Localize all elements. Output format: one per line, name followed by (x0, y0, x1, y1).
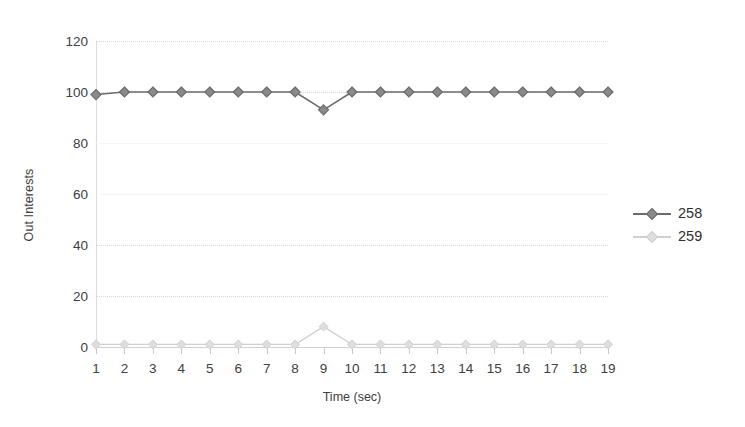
data-point-258-15 (489, 87, 499, 97)
data-point-258-4 (176, 87, 186, 97)
data-point-258-5 (205, 87, 215, 97)
x-axis-title: Time (sec) (96, 390, 608, 404)
y-tick-label-100: 100 (44, 86, 88, 100)
x-tick-label-1: 1 (83, 362, 109, 376)
x-tick-label-9: 9 (311, 362, 337, 376)
x-tick-label-13: 13 (424, 362, 450, 376)
data-point-258-19 (603, 87, 613, 97)
x-tick-label-4: 4 (168, 362, 194, 376)
series-258 (91, 87, 613, 115)
data-point-258-11 (375, 87, 385, 97)
data-point-258-18 (575, 87, 585, 97)
data-point-258-6 (233, 87, 243, 97)
line-chart: Out Interests Time (sec) 120100806040200… (0, 0, 745, 427)
x-tick-label-11: 11 (367, 362, 393, 376)
chart-legend: 258259 (632, 202, 732, 248)
x-tick-label-7: 7 (254, 362, 280, 376)
data-point-258-9 (319, 105, 329, 115)
data-point-258-8 (290, 87, 300, 97)
x-tick-label-8: 8 (282, 362, 308, 376)
x-tick-label-2: 2 (111, 362, 137, 376)
y-tick-label-20: 20 (44, 290, 88, 304)
x-tick-label-10: 10 (339, 362, 365, 376)
y-axis-title: Out Interests (14, 35, 44, 375)
x-tick-label-12: 12 (396, 362, 422, 376)
legend-label-258: 258 (678, 206, 702, 221)
y-tick-label-120: 120 (44, 35, 88, 49)
series-layer (96, 41, 608, 347)
legend-item-258[interactable]: 258 (632, 202, 732, 225)
data-point-258-17 (546, 87, 556, 97)
legend-swatch-259 (632, 230, 672, 244)
data-point-258-2 (119, 87, 129, 97)
x-tick-label-3: 3 (140, 362, 166, 376)
y-tick-label-80: 80 (44, 137, 88, 151)
data-point-258-13 (432, 87, 442, 97)
data-point-258-10 (347, 87, 357, 97)
series-259 (92, 322, 613, 349)
y-tick-label-60: 60 (44, 188, 88, 202)
legend-label-259: 259 (678, 229, 702, 244)
plot-area (96, 41, 608, 347)
x-tick-label-19: 19 (595, 362, 621, 376)
x-tick-label-14: 14 (453, 362, 479, 376)
x-tick-label-17: 17 (538, 362, 564, 376)
data-point-258-14 (461, 87, 471, 97)
x-tick-label-18: 18 (567, 362, 593, 376)
legend-swatch-258 (632, 207, 672, 221)
x-tick-label-5: 5 (197, 362, 223, 376)
data-point-258-3 (148, 87, 158, 97)
x-tick-label-6: 6 (225, 362, 251, 376)
data-point-258-16 (518, 87, 528, 97)
legend-item-259[interactable]: 259 (632, 225, 732, 248)
x-tick-label-16: 16 (510, 362, 536, 376)
data-point-258-1 (91, 90, 101, 100)
y-tick-label-40: 40 (44, 239, 88, 253)
y-tick-label-0: 0 (44, 341, 88, 355)
data-point-259-9 (319, 322, 328, 331)
x-tick-label-15: 15 (481, 362, 507, 376)
data-point-258-12 (404, 87, 414, 97)
data-point-258-7 (262, 87, 272, 97)
